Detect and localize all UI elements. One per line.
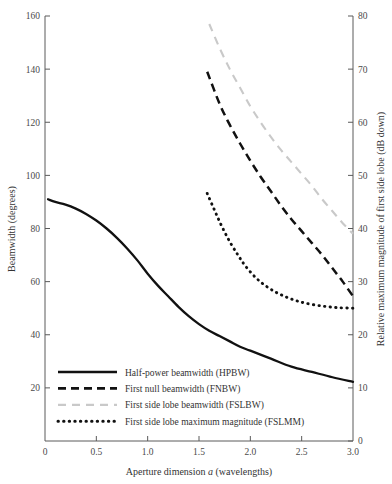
x-axis-label-part2: (wavelengths) [213,466,272,478]
right-tick-label: 70 [358,65,368,75]
series-curve-2 [209,24,353,234]
right-tick-label: 10 [358,383,368,393]
right-tick-label: 50 [358,171,368,181]
x-axis-label-part1: Aperture dimension [126,466,208,477]
legend-label-2: First side lobe beamwidth (FSLBW) [125,400,264,411]
right-tick-label: 0 [358,436,363,446]
chart-canvas: 20406080100120140160 01020304050607080 0… [0,0,392,484]
left-axis-ticks: 20406080100120140160 [26,11,50,393]
x-tick-label: 0.5 [90,447,102,457]
data-curves [48,24,353,382]
x-tick-label: 2.5 [296,447,308,457]
right-tick-label: 30 [358,277,368,287]
right-tick-label: 20 [358,330,368,340]
x-tick-label: 3.0 [347,447,359,457]
right-tick-label: 40 [358,224,368,234]
series-curve-0 [48,199,353,381]
x-tick-label: 1.0 [142,447,154,457]
y-axis-label-right: Relative maximum magnitude of first side… [375,112,387,346]
legend-label-1: First null beamwidth (FNBW) [125,384,240,395]
legend-label-3: First side lobe maximum magnitude (FSLMM… [125,417,304,428]
x-tick-label: 2.0 [244,447,256,457]
left-tick-label: 140 [26,65,41,75]
left-tick-label: 20 [31,383,41,393]
left-tick-label: 120 [26,118,41,128]
chart-figure: 20406080100120140160 01020304050607080 0… [0,0,392,484]
x-axis-label: Aperture dimension a (wavelengths) [126,466,272,478]
chart-legend: Half-power beamwidth (HPBW)First null be… [58,368,304,428]
bottom-axis-ticks: 00.51.01.52.02.53.0 [43,436,360,457]
left-tick-label: 100 [26,171,41,181]
x-tick-label: 1.5 [193,447,205,457]
right-tick-label: 60 [358,118,368,128]
x-tick-label: 0 [43,447,48,457]
series-curve-1 [207,72,353,296]
left-tick-label: 160 [26,11,41,21]
left-tick-label: 80 [31,224,41,234]
y-axis-label: Beamwidth (degrees) [6,186,18,272]
left-tick-label: 40 [31,330,41,340]
left-tick-label: 60 [31,277,41,287]
legend-label-0: Half-power beamwidth (HPBW) [125,368,250,379]
right-tick-label: 80 [358,11,368,21]
